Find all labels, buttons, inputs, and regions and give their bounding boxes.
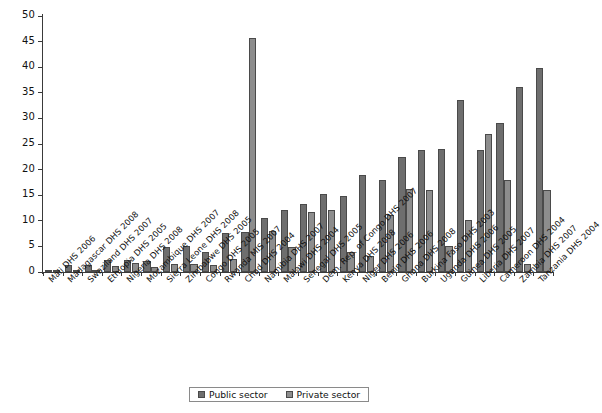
bar-private (73, 270, 80, 272)
x-axis-tick (141, 272, 142, 276)
bar-group (396, 16, 416, 272)
bar-public (340, 196, 347, 272)
y-tick-mark (38, 195, 42, 196)
x-axis-tick (533, 272, 534, 276)
x-axis-tick (318, 272, 319, 276)
y-tick-label: 35 (22, 86, 35, 97)
x-axis-tick (102, 272, 103, 276)
bar-private (367, 256, 374, 272)
x-axis-tick (455, 272, 456, 276)
bar-group (180, 16, 200, 272)
bar-public (300, 204, 307, 272)
bar-private (92, 270, 99, 272)
bar-private (171, 264, 178, 272)
bar-group (455, 16, 475, 272)
bar-public (241, 232, 248, 272)
x-axis-tick (376, 272, 377, 276)
legend-item-private: Private sector (286, 390, 360, 400)
bar-public (320, 194, 327, 272)
bar-group (220, 16, 240, 272)
legend-swatch-public-icon (198, 391, 205, 398)
bar-public (45, 270, 52, 272)
bar-public (359, 175, 366, 272)
x-axis-tick (298, 272, 299, 276)
x-axis-tick (180, 272, 181, 276)
bar-private (249, 38, 256, 272)
x-axis-tick (259, 272, 260, 276)
bar-public (65, 265, 72, 272)
bar-private (288, 247, 295, 272)
legend-swatch-private-icon (286, 391, 293, 398)
y-axis-ticks: 05101520253035404550 (0, 16, 42, 272)
bar-public (281, 210, 288, 272)
bar-group (121, 16, 141, 272)
bar-private (132, 263, 139, 272)
y-tick-label: 25 (22, 137, 35, 148)
bar-group (435, 16, 455, 272)
bar-public (222, 233, 229, 272)
bar-group (533, 16, 553, 272)
bar-group (43, 16, 63, 272)
bar-group (514, 16, 534, 272)
bar-group (200, 16, 220, 272)
bar-public (516, 87, 523, 272)
x-axis-tick (239, 272, 240, 276)
x-axis-tick (514, 272, 515, 276)
legend-item-public: Public sector (198, 390, 268, 400)
bar-private (53, 270, 60, 272)
x-axis-tick (553, 272, 554, 276)
bar-private (485, 134, 492, 272)
x-axis-tick (220, 272, 221, 276)
bar-group (141, 16, 161, 272)
bar-private (151, 267, 158, 272)
y-tick-label: 20 (22, 163, 35, 174)
x-axis-tick (494, 272, 495, 276)
bar-public (477, 150, 484, 272)
bar-group (63, 16, 83, 272)
bar-public (261, 218, 268, 272)
bar-private (406, 189, 413, 272)
bar-group (357, 16, 377, 272)
bar-private (445, 246, 452, 272)
legend-label-private: Private sector (297, 390, 360, 400)
x-axis-tick (82, 272, 83, 276)
bar-private (387, 215, 394, 272)
bar-group (82, 16, 102, 272)
bar-public (183, 246, 190, 272)
x-axis-tick (161, 272, 162, 276)
chart-legend: Public sector Private sector (189, 387, 369, 402)
y-tick-label: 40 (22, 60, 35, 71)
bar-group (475, 16, 495, 272)
bar-private (230, 259, 237, 272)
bar-private (308, 212, 315, 272)
bar-public (163, 247, 170, 272)
y-tick-mark (38, 16, 42, 17)
y-tick-mark (38, 169, 42, 170)
bar-private (190, 264, 197, 272)
bar-public (496, 123, 503, 273)
y-tick-mark (38, 246, 42, 247)
bar-group (494, 16, 514, 272)
y-tick-label: 50 (22, 9, 35, 20)
y-tick-mark (38, 67, 42, 68)
x-axis-tick (278, 272, 279, 276)
y-tick-label: 45 (22, 35, 35, 46)
bar-private (426, 190, 433, 272)
y-tick-mark (38, 92, 42, 93)
bar-group (239, 16, 259, 272)
x-axis-tick (121, 272, 122, 276)
bar-private (269, 231, 276, 272)
y-tick-mark (38, 220, 42, 221)
bar-group (298, 16, 318, 272)
bar-private (328, 210, 335, 272)
y-tick-label: 15 (22, 188, 35, 199)
bar-public (379, 180, 386, 272)
x-axis-tick (435, 272, 436, 276)
y-tick-mark (38, 41, 42, 42)
x-axis-tick (43, 272, 44, 276)
bar-group (161, 16, 181, 272)
bar-group (259, 16, 279, 272)
bar-private (210, 265, 217, 272)
bar-private (347, 252, 354, 272)
